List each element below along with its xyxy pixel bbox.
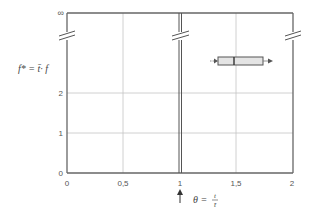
plug-flow-tube-icon xyxy=(210,57,273,65)
y-axis-label: f* = t̄· f xyxy=(18,63,49,74)
x-axis-label: θ = t t̄ xyxy=(193,192,218,209)
y-tick-0: 0 xyxy=(59,169,64,178)
axis-break-marks xyxy=(58,31,303,40)
svg-text:f* = t̄· f: f* = t̄· f xyxy=(18,63,49,74)
x-tick-0.5: 0,5 xyxy=(117,179,129,188)
y-label-rhs: · f xyxy=(40,63,49,74)
x-tick-1: 1 xyxy=(178,179,183,188)
x-tick-2: 2 xyxy=(290,179,295,188)
x-label-theta: θ = xyxy=(193,194,207,205)
chart: 0 1 2 ∞ 0 0,5 1 1,5 2 f* = t̄· f θ = t t… xyxy=(0,0,315,221)
y-tick-infinity: ∞ xyxy=(58,8,64,18)
x-label-numerator: t xyxy=(214,192,217,200)
arrow-up-icon xyxy=(177,189,183,203)
y-label-lhs: f* = xyxy=(18,63,38,74)
y-tick-2: 2 xyxy=(59,89,64,98)
y-tick-1: 1 xyxy=(59,129,64,138)
x-tick-1.5: 1,5 xyxy=(230,179,242,188)
x-tick-0: 0 xyxy=(65,179,70,188)
x-label-denominator: t̄ xyxy=(214,201,217,209)
